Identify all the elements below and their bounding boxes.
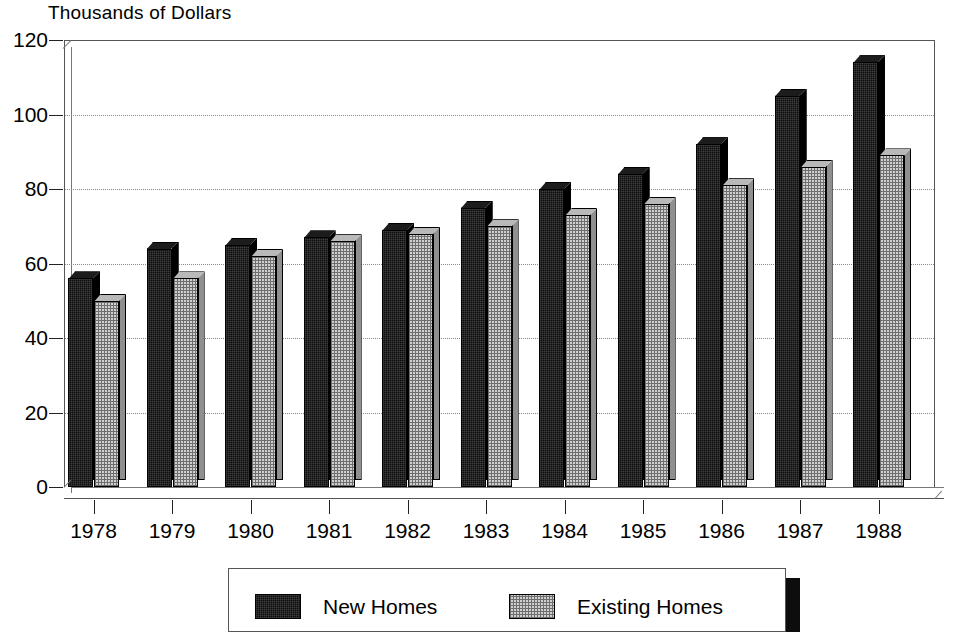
bar-front-face [539, 189, 564, 487]
plot-frame-right [934, 40, 935, 487]
bar-front-face [251, 256, 276, 487]
bar-front-face [382, 230, 407, 487]
bar-front-face [68, 278, 93, 487]
x-tick-mark [879, 500, 880, 514]
plot-area [64, 40, 935, 487]
x-tick-mark [408, 500, 409, 514]
legend-item-new-homes[interactable]: New Homes [255, 594, 437, 619]
x-tick-label: 1978 [70, 519, 117, 543]
bar-front-face [879, 155, 904, 487]
x-tick-mark [329, 500, 330, 514]
bar-side-face [433, 227, 440, 480]
x-tick-mark [94, 500, 95, 514]
x-tick-mark [565, 500, 566, 514]
bar-front-face [853, 62, 878, 487]
x-tick-label: 1980 [227, 519, 274, 543]
bar-side-face [198, 271, 205, 480]
x-tick-mark [172, 500, 173, 514]
y-tick-mark [49, 338, 63, 339]
bar-existing-homes [408, 227, 440, 487]
y-tick-label: 100 [13, 104, 48, 125]
bar-front-face [173, 278, 198, 487]
x-tick-label: 1982 [384, 519, 431, 543]
bar-front-face [408, 234, 433, 487]
bar-existing-homes [722, 178, 754, 487]
legend-shadow [786, 578, 800, 632]
bar-existing-homes [94, 294, 126, 487]
bar-front-face [304, 237, 329, 487]
x-tick-label: 1988 [855, 519, 902, 543]
bar-front-face [225, 245, 250, 487]
bar-existing-homes [644, 197, 676, 487]
bar-side-face [590, 208, 597, 480]
x-tick-mark [486, 500, 487, 514]
x-tick-label: 1987 [777, 519, 824, 543]
x-tick-mark [643, 500, 644, 514]
black-swatch-icon [255, 594, 301, 619]
bar-front-face [330, 241, 355, 487]
bar-front-face [461, 208, 486, 487]
bar-front-face [487, 226, 512, 487]
y-tick-label: 60 [25, 253, 48, 274]
chart-legend: New Homes Existing Homes [228, 568, 786, 632]
x-tick-label: 1985 [620, 519, 667, 543]
bar-existing-homes [330, 234, 362, 487]
y-tick-label: 40 [25, 327, 48, 348]
y-tick-label: 80 [25, 178, 48, 199]
bar-existing-homes [565, 208, 597, 487]
bar-chart: Thousands of Dollars 020406080100120 197… [0, 0, 963, 632]
y-tick-label: 0 [36, 476, 48, 497]
bar-existing-homes [487, 219, 519, 487]
x-tick-label: 1986 [698, 519, 745, 543]
legend-item-existing-homes[interactable]: Existing Homes [509, 594, 723, 619]
chart-floor [64, 487, 944, 499]
bar-side-face [119, 294, 126, 480]
bar-side-face [355, 234, 362, 480]
bar-front-face [775, 96, 800, 487]
x-tick-mark [722, 500, 723, 514]
y-tick-mark [49, 264, 63, 265]
bar-front-face [147, 249, 172, 487]
bar-front-face [565, 215, 590, 487]
bar-side-face [904, 148, 911, 480]
bar-front-face [94, 301, 119, 487]
x-tick-label: 1981 [306, 519, 353, 543]
y-tick-mark [49, 115, 63, 116]
bar-front-face [644, 204, 669, 487]
bar-existing-homes [251, 249, 283, 487]
bar-side-face [276, 249, 283, 480]
plot-frame-top [64, 40, 935, 41]
chart-title: Thousands of Dollars [48, 2, 232, 24]
y-tick-mark [49, 413, 63, 414]
bar-side-face [747, 178, 754, 480]
bar-front-face [722, 185, 747, 487]
x-tick-label: 1984 [541, 519, 588, 543]
y-tick-label: 120 [13, 29, 48, 50]
bar-front-face [618, 174, 643, 487]
floor-back-edge [71, 487, 944, 488]
y-tick-mark [49, 487, 63, 488]
y-tick-mark [49, 189, 63, 190]
x-tick-mark [800, 500, 801, 514]
legend-label: New Homes [323, 595, 437, 619]
bar-existing-homes [173, 271, 205, 487]
gray-swatch-icon [509, 594, 555, 619]
bar-side-face [669, 197, 676, 480]
bar-front-face [696, 144, 721, 487]
floor-front-edge [64, 498, 944, 499]
legend-label: Existing Homes [577, 595, 723, 619]
y-tick-label: 20 [25, 402, 48, 423]
bar-side-face [826, 160, 833, 480]
bar-front-face [801, 167, 826, 487]
bar-side-face [512, 219, 519, 480]
bar-existing-homes [879, 148, 911, 487]
x-tick-label: 1983 [463, 519, 510, 543]
x-tick-label: 1979 [149, 519, 196, 543]
plot-wall-corner [64, 40, 73, 49]
x-tick-mark [251, 500, 252, 514]
bar-existing-homes [801, 160, 833, 487]
y-tick-mark [49, 40, 63, 41]
